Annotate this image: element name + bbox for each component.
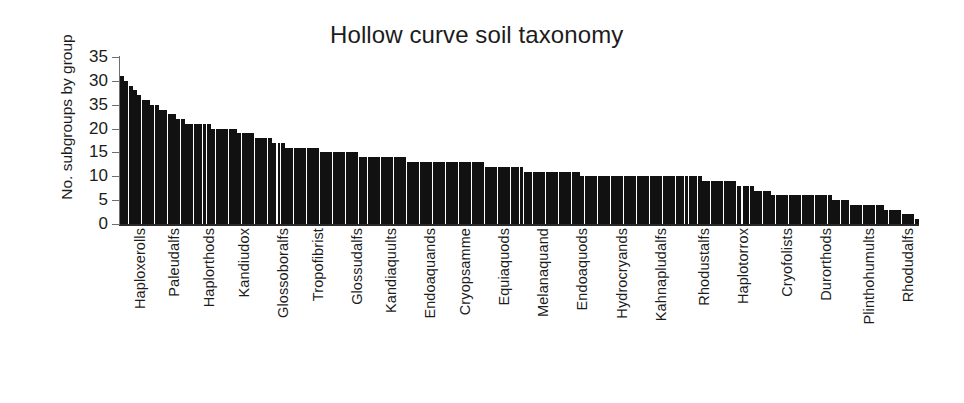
- y-axis-tick-mark: [112, 224, 120, 225]
- bar-series: [120, 52, 919, 224]
- y-axis-tick-mark: [112, 152, 120, 153]
- y-axis-tick-mark: [112, 200, 120, 201]
- x-axis-tick-labels: HaploxerollsPaleudalfsHaplorthodsKandiud…: [120, 228, 920, 403]
- x-axis-tick-label: Haploxerolls: [132, 228, 148, 309]
- bar: [915, 219, 919, 224]
- y-axis-tick-label: 35: [68, 48, 108, 65]
- y-axis-tick-label: 30: [68, 72, 108, 89]
- y-axis-tick-label: 15: [68, 143, 108, 160]
- x-axis-tick-label: Cryofolists: [779, 228, 795, 297]
- x-axis-tick-label: Paleudalfs: [166, 228, 182, 297]
- y-axis-tick-label: 0: [68, 215, 108, 232]
- x-axis-tick-label: Endoaquands: [422, 228, 438, 319]
- x-axis-tick-label: Glossudalfs: [349, 228, 365, 305]
- x-axis-tick-label: Glossoboralfs: [275, 228, 291, 318]
- chart-figure: Hollow curve soil taxonomy No. subgroups…: [0, 0, 964, 403]
- y-axis-tick-label: 10: [68, 167, 108, 184]
- y-axis-tick-mark: [112, 129, 120, 130]
- x-axis-tick-label: Kandiaquults: [383, 228, 399, 313]
- y-axis-tick-mark: [112, 57, 120, 58]
- y-axis-tick-mark: [112, 81, 120, 82]
- x-axis-tick-label: Kandiudox: [236, 228, 252, 297]
- y-axis-tick-label: 5: [68, 191, 108, 208]
- y-axis-tick-label: 35: [68, 96, 108, 113]
- bar-group-separator: [741, 184, 743, 224]
- x-axis-tick-label: Kahnapludalfs: [653, 228, 669, 321]
- x-axis-tick-label: Tropofibrist: [310, 228, 326, 301]
- x-axis-tick-label: Haplotorrox: [735, 228, 751, 304]
- y-axis-tick-mark: [112, 176, 120, 177]
- x-axis-tick-label: Melanaquand: [535, 228, 551, 317]
- x-axis-tick-label: Plinthohumults: [861, 228, 877, 325]
- x-axis-tick-label: Rhodudalfs: [900, 228, 916, 302]
- x-axis-tick-label: Haplorthods: [201, 228, 217, 307]
- x-axis-tick-label: Cryopsamme: [457, 228, 473, 315]
- x-axis-tick-label: Rhodustalfs: [696, 228, 712, 306]
- y-axis-tick-mark: [112, 105, 120, 106]
- chart-title: Hollow curve soil taxonomy: [330, 21, 730, 49]
- bar-group-separator: [276, 141, 278, 224]
- x-axis-tick-label: Equiaquods: [496, 228, 512, 306]
- y-axis-tick-label: 20: [68, 120, 108, 137]
- x-axis-tick-label: Endoaquods: [574, 228, 590, 310]
- x-axis-tick-label: Hydrocryands: [614, 228, 630, 319]
- x-axis-baseline: [119, 224, 919, 226]
- y-axis-tick-labels: 35303520151050: [62, 0, 108, 403]
- x-axis-tick-label: Durorthods: [818, 228, 834, 301]
